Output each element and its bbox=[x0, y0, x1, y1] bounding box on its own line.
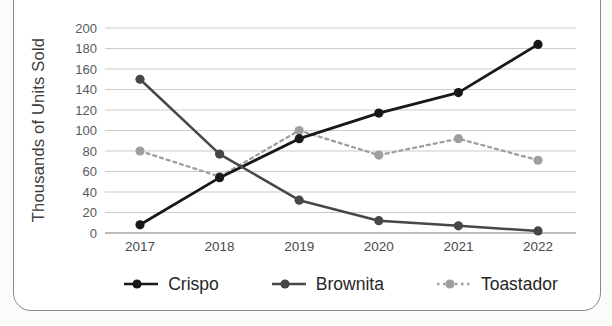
data-point-toastador bbox=[454, 134, 463, 143]
data-point-crispo bbox=[533, 40, 542, 49]
y-tick-label: 140 bbox=[75, 82, 97, 97]
y-tick-label: 0 bbox=[90, 226, 97, 241]
series-line-toastador bbox=[140, 131, 538, 177]
page-background: 0204060801001201401601802002017201820192… bbox=[0, 0, 612, 326]
x-tick-label: 2017 bbox=[125, 239, 155, 254]
data-point-crispo bbox=[454, 88, 463, 97]
legend-item-brownita: Brownita bbox=[271, 274, 384, 295]
legend-item-crispo: Crispo bbox=[123, 274, 219, 295]
legend-marker-crispo-icon bbox=[123, 277, 159, 291]
x-tick-label: 2018 bbox=[205, 239, 235, 254]
y-tick-label: 200 bbox=[75, 21, 97, 36]
x-tick-label: 2020 bbox=[364, 239, 394, 254]
data-point-brownita bbox=[454, 221, 463, 230]
data-point-toastador bbox=[374, 151, 383, 160]
data-point-brownita bbox=[135, 75, 144, 84]
data-point-crispo bbox=[374, 108, 383, 117]
x-tick-label: 2022 bbox=[523, 239, 553, 254]
y-tick-label: 60 bbox=[83, 164, 97, 179]
legend-label-toastador: Toastador bbox=[481, 274, 558, 295]
data-point-brownita bbox=[295, 196, 304, 205]
data-point-toastador bbox=[295, 126, 304, 135]
legend-label-brownita: Brownita bbox=[316, 274, 384, 295]
legend-label-crispo: Crispo bbox=[168, 274, 219, 295]
data-point-brownita bbox=[215, 149, 224, 158]
y-tick-label: 120 bbox=[75, 103, 97, 118]
data-point-brownita bbox=[374, 216, 383, 225]
y-tick-label: 180 bbox=[75, 41, 97, 56]
y-tick-label: 20 bbox=[83, 205, 97, 220]
data-point-toastador bbox=[533, 156, 542, 165]
x-tick-label: 2021 bbox=[443, 239, 473, 254]
y-tick-label: 80 bbox=[83, 144, 97, 159]
legend-item-toastador: Toastador bbox=[436, 274, 558, 295]
data-point-crispo bbox=[215, 173, 224, 182]
y-tick-label: 160 bbox=[75, 62, 97, 77]
series-line-brownita bbox=[140, 79, 538, 231]
y-tick-label: 100 bbox=[75, 123, 97, 138]
legend-marker-brownita-icon bbox=[271, 277, 307, 291]
y-tick-label: 40 bbox=[83, 185, 97, 200]
data-point-brownita bbox=[533, 226, 542, 235]
chart-legend: CrispoBrownitaToastador bbox=[105, 270, 576, 298]
legend-marker-toastador-icon bbox=[436, 277, 472, 291]
y-axis-title: Thousands of Units Sold bbox=[29, 38, 48, 222]
data-point-crispo bbox=[295, 134, 304, 143]
data-point-crispo bbox=[135, 220, 144, 229]
data-point-toastador bbox=[135, 146, 144, 155]
x-tick-label: 2019 bbox=[284, 239, 314, 254]
